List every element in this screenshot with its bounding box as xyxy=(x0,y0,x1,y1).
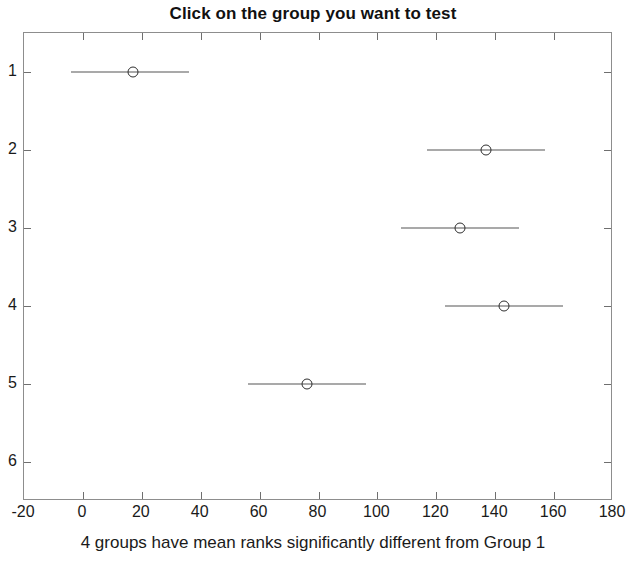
x-axis-tick xyxy=(83,33,84,40)
x-axis-tick-label: 140 xyxy=(481,503,508,521)
mean-rank-marker[interactable] xyxy=(499,301,510,312)
x-axis-tick xyxy=(201,33,202,40)
x-axis-tick xyxy=(319,33,320,40)
x-axis-tick xyxy=(495,492,496,499)
x-axis-tick xyxy=(377,33,378,40)
x-axis-tick-label: -20 xyxy=(11,503,34,521)
x-axis-tick xyxy=(554,492,555,499)
mean-rank-marker[interactable] xyxy=(127,67,138,78)
x-axis-tick xyxy=(201,492,202,499)
group-row[interactable] xyxy=(24,213,611,243)
x-axis-tick xyxy=(260,492,261,499)
chart-caption: 4 groups have mean ranks significantly d… xyxy=(0,533,626,553)
group-row[interactable] xyxy=(24,447,611,477)
x-axis-tick-label: 40 xyxy=(191,503,209,521)
x-axis-tick-label: 100 xyxy=(363,503,390,521)
plot-area[interactable] xyxy=(23,32,612,500)
mean-rank-marker[interactable] xyxy=(481,145,492,156)
x-axis-tick-label: 80 xyxy=(309,503,327,521)
x-axis-tick xyxy=(83,492,84,499)
x-axis-tick xyxy=(495,33,496,40)
x-axis-tick xyxy=(319,492,320,499)
x-axis-tick xyxy=(260,33,261,40)
y-axis-tick-label: 6 xyxy=(0,453,17,469)
x-axis-tick xyxy=(142,33,143,40)
mean-rank-marker[interactable] xyxy=(301,379,312,390)
x-axis-tick-label: 20 xyxy=(132,503,150,521)
x-axis-tick xyxy=(377,492,378,499)
x-axis-tick xyxy=(554,33,555,40)
x-axis-tick xyxy=(436,492,437,499)
multcompare-figure: Click on the group you want to test 1234… xyxy=(0,0,626,571)
mean-rank-marker[interactable] xyxy=(454,223,465,234)
x-axis-tick xyxy=(142,492,143,499)
plot-canvas[interactable] xyxy=(24,33,611,499)
x-axis-tick-label: 60 xyxy=(250,503,268,521)
y-axis-tick-label: 5 xyxy=(0,375,17,391)
x-axis-tick-label: 120 xyxy=(422,503,449,521)
y-axis-tick-label: 3 xyxy=(0,219,17,235)
x-axis-tick-label: 0 xyxy=(77,503,86,521)
y-axis-tick-label: 1 xyxy=(0,63,17,79)
y-axis-tick-label: 2 xyxy=(0,141,17,157)
y-axis-tick-label: 4 xyxy=(0,297,17,313)
x-axis-tick-label: 160 xyxy=(540,503,567,521)
page-title: Click on the group you want to test xyxy=(0,4,626,24)
x-axis-tick xyxy=(436,33,437,40)
x-axis-tick-label: 180 xyxy=(599,503,626,521)
